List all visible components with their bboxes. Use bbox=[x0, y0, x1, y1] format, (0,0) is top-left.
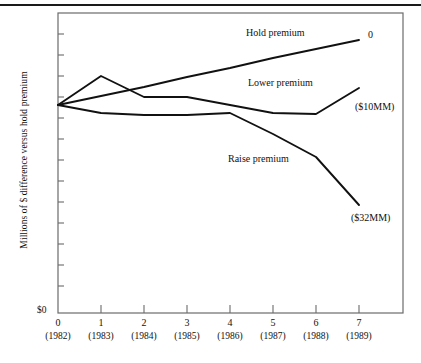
x-tick-year-0: (1982) bbox=[45, 331, 70, 341]
series-label-hold-premium: Hold premium bbox=[246, 27, 305, 38]
x-tick-year-7: (1989) bbox=[346, 331, 371, 341]
x-tick-number-2: 2 bbox=[142, 317, 147, 328]
x-tick-year-6: (1988) bbox=[303, 331, 328, 341]
series-line-raise-premium bbox=[58, 105, 359, 205]
x-tick-number-7: 7 bbox=[357, 317, 362, 328]
x-tick-year-4: (1986) bbox=[217, 331, 242, 341]
chart-plot-area bbox=[0, 0, 421, 363]
x-tick-number-3: 3 bbox=[185, 317, 190, 328]
end-label-hold-premium: 0 bbox=[368, 29, 373, 40]
figure-container: Millions of $ difference versus hold pre… bbox=[0, 0, 421, 363]
series-line-hold-premium bbox=[58, 40, 359, 105]
end-label-lower-premium: ($10MM) bbox=[355, 101, 394, 112]
end-label-raise-premium: ($32MM) bbox=[351, 212, 390, 223]
x-tick-year-5: (1987) bbox=[260, 331, 285, 341]
x-tick-number-4: 4 bbox=[228, 317, 233, 328]
series-label-lower-premium: Lower premium bbox=[248, 77, 313, 88]
x-tick-year-2: (1984) bbox=[131, 331, 156, 341]
x-tick-number-5: 5 bbox=[271, 317, 276, 328]
series-label-raise-premium: Raise premium bbox=[228, 153, 289, 164]
x-axis-ticks bbox=[101, 305, 359, 313]
x-tick-year-1: (1983) bbox=[88, 331, 113, 341]
x-tick-number-6: 6 bbox=[314, 317, 319, 328]
x-tick-number-1: 1 bbox=[99, 317, 104, 328]
y-axis-ticks bbox=[58, 34, 64, 286]
x-tick-number-0: 0 bbox=[56, 317, 61, 328]
x-tick-year-3: (1985) bbox=[174, 331, 199, 341]
